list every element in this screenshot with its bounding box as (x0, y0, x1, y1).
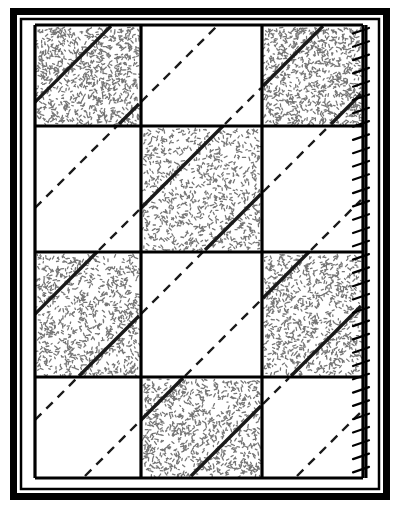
diagram-canvas (0, 0, 399, 507)
shaded-patch (35, 25, 142, 127)
shaded-patch (262, 252, 363, 377)
shaded-patch (141, 377, 262, 478)
plain-patch (35, 126, 141, 252)
plain-patch (35, 377, 141, 478)
shaded-patch (262, 25, 363, 127)
quilt-pattern-svg (0, 0, 399, 507)
shaded-patch (35, 252, 141, 378)
quilt-pattern-figure (0, 0, 399, 507)
plain-patch (262, 377, 363, 478)
plain-patch (262, 126, 363, 252)
